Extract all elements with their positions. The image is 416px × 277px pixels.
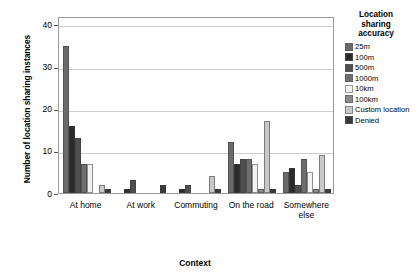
x-category-label: Somewhereelse xyxy=(279,200,334,220)
legend-item-label: Custom location xyxy=(355,105,409,114)
bar-group xyxy=(228,18,276,193)
legend-item[interactable]: 100m xyxy=(345,52,415,62)
legend-item-label: 25m xyxy=(355,42,370,51)
bar xyxy=(264,121,270,193)
bar xyxy=(270,189,276,193)
bar-group xyxy=(118,18,166,193)
legend-title: Location sharing accuracy xyxy=(345,10,407,39)
legend-title-line-2: sharing xyxy=(345,20,407,30)
legend-title-line-1: Location xyxy=(345,10,407,20)
legend-item[interactable]: 10km xyxy=(345,84,415,94)
legend-item[interactable]: 500m xyxy=(345,63,415,73)
bar-chart: Number of location sharing instances 010… xyxy=(0,0,416,277)
x-axis-title: Context xyxy=(60,258,330,268)
legend-items: 25m100m500m1000m10km100kmCustom location… xyxy=(345,42,415,126)
y-tick-label: 10 xyxy=(12,146,52,156)
x-category-label-line: At home xyxy=(58,200,113,210)
legend-item[interactable]: Denied xyxy=(345,115,415,125)
legend: Location sharing accuracy 25m100m500m100… xyxy=(345,10,415,126)
plot-area xyxy=(58,17,334,194)
legend-item[interactable]: Custom location xyxy=(345,105,415,115)
bar xyxy=(105,189,111,193)
bar-group xyxy=(283,18,331,193)
legend-item-label: 100km xyxy=(355,95,378,104)
y-tick-mark xyxy=(54,194,58,195)
x-category-label: On the road xyxy=(224,200,279,210)
legend-swatch-icon xyxy=(345,116,353,124)
legend-item-label: 100m xyxy=(355,53,374,62)
y-tick-label: 0 xyxy=(12,189,52,199)
legend-item-label: 10km xyxy=(355,84,374,93)
legend-swatch-icon xyxy=(345,43,353,51)
bar xyxy=(319,155,325,193)
bar xyxy=(325,189,331,193)
x-category-label-line: else xyxy=(279,210,334,220)
bar xyxy=(185,185,191,193)
legend-swatch-icon xyxy=(345,64,353,72)
legend-title-line-3: accuracy xyxy=(345,29,407,39)
x-category-label: At work xyxy=(113,200,168,210)
legend-swatch-icon xyxy=(345,106,353,114)
legend-item-label: Denied xyxy=(355,116,379,125)
bar-group xyxy=(63,18,111,193)
legend-swatch-icon xyxy=(345,85,353,93)
legend-item-label: 1000m xyxy=(355,74,378,83)
x-category-label-line: At work xyxy=(113,200,168,210)
y-tick-label: 40 xyxy=(12,20,52,30)
bar-group xyxy=(173,18,221,193)
legend-item[interactable]: 1000m xyxy=(345,73,415,83)
bar xyxy=(215,189,221,193)
bar xyxy=(87,164,93,194)
x-category-label: Commuting xyxy=(168,200,223,210)
legend-item-label: 500m xyxy=(355,63,374,72)
legend-swatch-icon xyxy=(345,74,353,82)
x-category-label: At home xyxy=(58,200,113,210)
legend-item[interactable]: 100km xyxy=(345,94,415,104)
bar xyxy=(130,180,136,193)
legend-swatch-icon xyxy=(345,53,353,61)
y-tick-label: 30 xyxy=(12,62,52,72)
legend-item[interactable]: 25m xyxy=(345,42,415,52)
x-category-label-line: On the road xyxy=(224,200,279,210)
legend-swatch-icon xyxy=(345,95,353,103)
x-category-label-line: Commuting xyxy=(168,200,223,210)
x-category-label-line: Somewhere xyxy=(279,200,334,210)
bar xyxy=(160,185,166,193)
y-tick-label: 20 xyxy=(12,104,52,114)
